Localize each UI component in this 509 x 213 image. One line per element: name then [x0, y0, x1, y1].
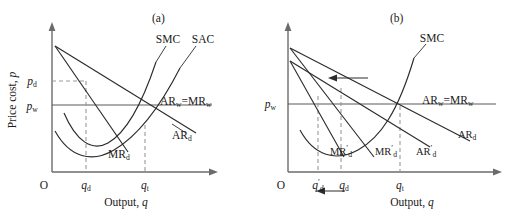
panel-a-smc-curve: [64, 62, 156, 146]
panel-b-smc-label: SMC: [420, 32, 445, 44]
figure-svg: (a) pd pw O: [0, 0, 509, 213]
panel-b-smc-curve: [300, 58, 414, 156]
panel-b-y-axis-arrowhead: [285, 22, 292, 31]
panel-a-caption: (a): [152, 12, 165, 25]
panel-b-demand-shift-arrowhead: [328, 75, 337, 82]
panel-a-origin-label: O: [40, 179, 48, 191]
panel-a-smc-label: SMC: [156, 33, 181, 45]
panel-a-xtick-qd: qd: [81, 179, 91, 193]
panel-b-mrd-label: MR′d: [375, 143, 397, 159]
panel-b-ard-label: ARd: [458, 129, 477, 142]
panel-b-xtick-qt: qt: [396, 179, 405, 193]
panel-a-ytick-pw: pw: [25, 100, 38, 114]
panel-a-x-axis-arrowhead: [209, 169, 218, 176]
panel-a-y-axis-arrowhead: [49, 22, 56, 31]
panel-b-origin-label: O: [277, 179, 285, 191]
panel-a-x-axis-title: Output,q: [104, 196, 148, 209]
panel-a-sac-label: SAC: [192, 33, 215, 45]
panel-a-sac-leader: [180, 46, 196, 68]
panel-a-smc-leader: [156, 46, 166, 62]
panel-b-caption: (b): [390, 12, 404, 25]
panel-b-mrd-prime-label: MR′d: [330, 143, 352, 159]
panel-a-ard-curve: [55, 46, 196, 133]
panel-b-smc-leader: [414, 44, 426, 58]
panel-b-arw-mrw-label: ARw=MRw: [422, 94, 474, 108]
panel-b: (b) pw O: [264, 12, 502, 209]
panel-b-x-axis-title: Output,q: [390, 196, 434, 209]
panel-b-ytick-pw: pw: [264, 98, 277, 112]
panel-b-ard-prime-label: AR′d: [416, 143, 436, 159]
panel-a-ytick-pd: pd: [26, 75, 37, 89]
economics-figure: (a) pd pw O: [0, 0, 509, 213]
panel-a-xtick-qt: qt: [141, 179, 150, 193]
panel-a-ard-label: ARd: [172, 129, 192, 143]
panel-b-mrd-curve: [290, 48, 374, 157]
panel-a: (a) pd pw O: [6, 12, 218, 209]
panel-b-x-axis-arrowhead: [493, 169, 502, 176]
panel-a-y-axis-title: Price cost,p: [6, 71, 19, 128]
panel-a-arw-mrw-label: ARw=MRw: [160, 95, 212, 109]
